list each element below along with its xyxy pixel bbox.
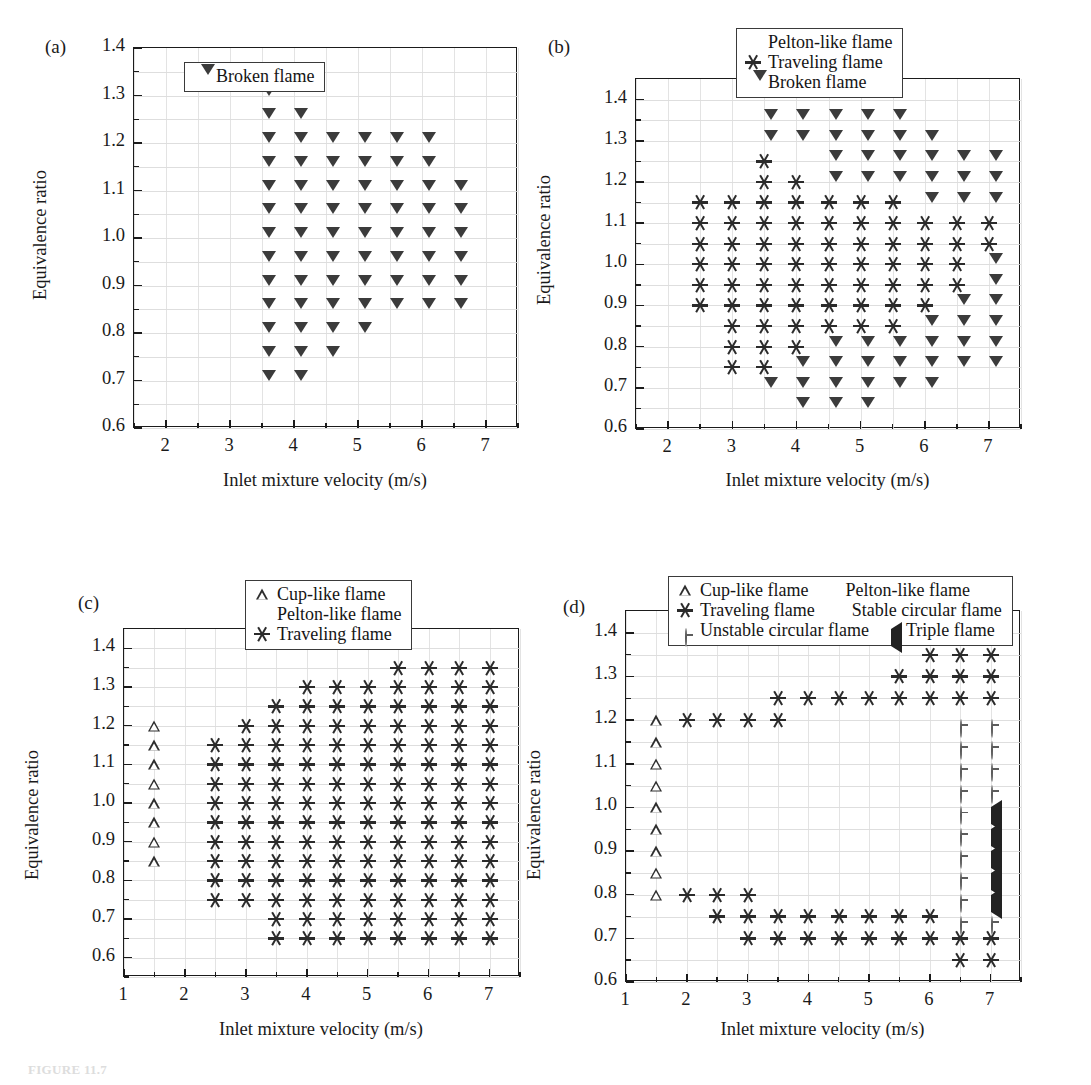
gridline-v (668, 79, 669, 429)
panel-label-c: (c) (78, 592, 99, 614)
x-tick-label: 4 (770, 436, 820, 457)
x-tick-label: 2 (642, 436, 692, 457)
circle-open-barred-icon (960, 872, 962, 891)
up-triangle-outline-icon (148, 720, 160, 731)
legend-label: Broken flame (768, 73, 866, 92)
gridline-v (778, 611, 779, 982)
figure-root: (a)0.60.70.80.91.01.11.21.31.4234567Equi… (0, 0, 1091, 1085)
down-triangle-filled-icon (796, 130, 810, 158)
legend-symbol-travel (254, 626, 270, 642)
y-tick-label: 0.7 (579, 375, 627, 396)
legend-item-broken: Broken flame (745, 73, 866, 92)
legend-label: Pelton-like flame (845, 581, 969, 600)
y-tick-major (124, 880, 132, 882)
y-tick-label: 1.0 (569, 794, 617, 815)
x-tick-label: 2 (140, 435, 190, 456)
gridline-v (166, 48, 167, 428)
y-tick-label: 1.3 (579, 128, 627, 149)
y-tick-minor (124, 744, 129, 745)
x-tick-major (367, 969, 369, 977)
up-triangle-outline-icon (148, 836, 160, 847)
x-tick-minor (899, 977, 900, 982)
x-tick-minor (777, 977, 778, 982)
up-triangle-outline-icon (148, 798, 160, 809)
legend-item-travel: Traveling flame (254, 625, 392, 644)
circle-open-barred-icon (960, 806, 962, 825)
y-tick-major (636, 99, 644, 101)
legend-item-pelton: Pelton-like flame (745, 33, 892, 52)
y-tick-major (636, 181, 644, 183)
legend-symbol-stable (829, 602, 845, 618)
y-tick-major (626, 763, 634, 765)
y-tick-minor (636, 243, 641, 244)
up-triangle-outline-icon (148, 740, 160, 751)
legend-c: Cup-like flamePelton-like flameTraveling… (245, 580, 412, 650)
legend-item-unstable: Unstable circular flame (677, 621, 883, 640)
y-tick-major (636, 140, 644, 142)
x-tick-major (421, 420, 423, 428)
y-tick-minor (626, 698, 631, 699)
y-tick-label: 0.9 (569, 838, 617, 859)
circle-open-barred-icon (960, 850, 962, 869)
y-tick-minor (626, 959, 631, 960)
y-tick-label: 0.7 (569, 925, 617, 946)
x-tick-label: 7 (464, 984, 514, 1005)
gridline-h (134, 428, 518, 429)
x-tick-label: 4 (268, 435, 318, 456)
legend-symbol-travel (745, 54, 761, 70)
gridline-v (185, 629, 186, 977)
x-tick-minor (453, 423, 454, 428)
plot-area-b (635, 78, 1020, 428)
x-tick-label: 6 (899, 436, 949, 457)
y-tick-minor (626, 916, 631, 917)
legend-d: Cup-like flamePelton-like flameTraveling… (668, 576, 1013, 646)
y-tick-minor (626, 829, 631, 830)
gridline-v (930, 611, 931, 982)
x-tick-label: 3 (722, 989, 772, 1010)
x-tick-minor (716, 977, 717, 982)
up-triangle-outline-icon (256, 589, 268, 600)
y-tick-minor (134, 214, 139, 215)
y-tick-minor (134, 309, 139, 310)
y-tick-minor (134, 166, 139, 167)
y-tick-major (636, 305, 644, 307)
down-triangle-filled-icon (390, 298, 404, 326)
x-tick-minor (960, 977, 961, 982)
plot-area-c (123, 628, 519, 976)
x-tick-minor (154, 972, 155, 977)
y-tick-major (626, 676, 634, 678)
gridline-v (486, 48, 487, 428)
left-triangle-filled-icon (991, 888, 1002, 919)
gridline-v (656, 611, 657, 982)
x-tick-minor (458, 972, 459, 977)
gridline-v (1021, 611, 1022, 982)
y-tick-major (124, 918, 132, 920)
legend-item-travel: Traveling flame (677, 601, 829, 620)
y-tick-label: 1.0 (579, 251, 627, 272)
x-tick-label: 6 (396, 435, 446, 456)
y-tick-label: 0.6 (569, 969, 617, 990)
y-tick-label: 1.3 (569, 663, 617, 684)
y-tick-label: 0.7 (77, 368, 125, 389)
y-tick-major (626, 938, 634, 940)
gridline-v (626, 611, 627, 982)
circle-open-barred-icon (960, 785, 962, 804)
x-tick-minor (519, 972, 520, 977)
y-tick-major (134, 237, 142, 239)
up-triangle-outline-icon (148, 856, 160, 867)
legend-label: Traveling flame (277, 625, 392, 644)
x-tick-minor (337, 972, 338, 977)
legend-symbol-pelton (822, 582, 838, 598)
y-tick-minor (626, 785, 631, 786)
y-tick-minor (636, 408, 641, 409)
gridline-v (518, 48, 519, 428)
y-tick-label: 1.2 (77, 130, 125, 151)
x-tick-major (808, 974, 810, 982)
y-tick-major (636, 387, 644, 389)
legend-row: Traveling flameStable circular flame (677, 601, 1002, 620)
down-triangle-filled-icon (829, 397, 843, 425)
x-tick-label: 3 (220, 984, 270, 1005)
x-tick-major (357, 420, 359, 428)
legend-a: Broken flame (184, 62, 325, 92)
x-tick-label: 5 (835, 436, 885, 457)
